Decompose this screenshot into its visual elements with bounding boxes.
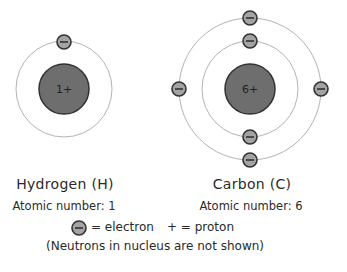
carbon-atomic-number: Atomic number: 6: [199, 199, 302, 213]
electron-icon: [243, 11, 257, 25]
electron-icon: [243, 153, 257, 167]
electron-icon: [243, 130, 257, 144]
hydrogen-atom: 1+: [16, 35, 112, 137]
carbon-atom: 6+: [172, 11, 328, 167]
hydrogen-nucleus-label: 1+: [56, 83, 72, 96]
hydrogen-name: Hydrogen (H): [16, 176, 114, 192]
hydrogen-atomic-number: Atomic number: 1: [12, 199, 115, 213]
electron-icon: [57, 35, 71, 49]
legend-electron-label: = electron: [91, 220, 154, 234]
electron-icon: [314, 82, 328, 96]
carbon-name: Carbon (C): [213, 176, 292, 192]
carbon-nucleus-label: 6+: [242, 83, 258, 96]
electron-icon: [172, 82, 186, 96]
electron-icon: [243, 34, 257, 48]
legend-note: (Neutrons in nucleus are not shown): [46, 239, 264, 253]
legend-proton-label: + = proton: [167, 220, 234, 234]
legend-electron-icon: [72, 221, 86, 235]
